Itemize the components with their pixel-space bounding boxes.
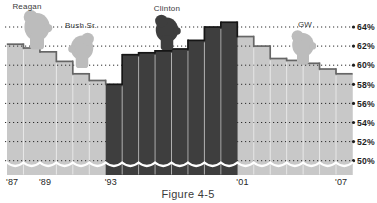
president-label-bush-sr: Bush Sr. <box>65 21 97 30</box>
bar-01 <box>237 37 254 175</box>
gw-head-shape <box>297 50 309 64</box>
bar-94 <box>122 55 139 175</box>
y-axis-label-62: 62% <box>357 41 375 51</box>
y-axis-label-50: 50% <box>357 156 375 166</box>
president-label-reagan: Reagan <box>12 2 41 11</box>
bar-89 <box>40 52 57 175</box>
bar-03 <box>270 59 287 175</box>
gridline-bullet-58 <box>352 83 355 86</box>
x-tick-01: '01 <box>236 177 248 187</box>
bar-91 <box>73 74 90 175</box>
bar-00 <box>221 22 238 175</box>
gridline-bullet-60 <box>352 64 355 67</box>
bar-87 <box>7 44 24 175</box>
y-axis-label-52: 52% <box>357 137 375 147</box>
president-label-gw: GW <box>298 20 312 29</box>
y-axis-label-54: 54% <box>357 118 375 128</box>
bar-96 <box>155 51 172 175</box>
y-axis-label-64: 64% <box>357 22 375 32</box>
x-tick-89: '89 <box>39 177 51 187</box>
reagan-head-shape <box>44 24 52 32</box>
clinton-head-shape <box>161 36 174 50</box>
gw-head-icon <box>292 30 317 64</box>
bar-97 <box>172 49 189 175</box>
gw-head-shape <box>292 30 304 42</box>
bar-88 <box>23 48 40 175</box>
y-axis-label-56: 56% <box>357 99 375 109</box>
bar-90 <box>56 61 73 175</box>
bush-sr-head-shape <box>81 33 94 46</box>
figure-caption: Figure 4-5 <box>161 188 214 200</box>
bar-99 <box>204 27 221 175</box>
clinton-head-icon <box>155 15 181 50</box>
reagan-head-shape <box>30 33 44 49</box>
gridline-bullet-64 <box>352 25 355 28</box>
bar-07 <box>336 74 353 175</box>
bush-sr-head-shape <box>76 54 89 68</box>
chart: 64%62%60%58%56%54%52%50%'87'89'93'01'07R… <box>0 0 377 203</box>
reagan-head-icon <box>24 10 53 49</box>
bar-04 <box>287 60 304 175</box>
bush-sr-head-shape <box>68 45 76 53</box>
clinton-head-shape <box>155 15 168 28</box>
x-tick-87: '87 <box>6 177 18 187</box>
gw-head-shape <box>309 42 316 49</box>
x-tick-93: '93 <box>105 177 117 187</box>
gridline-bullet-54 <box>352 121 355 124</box>
x-tick-07: '07 <box>335 177 347 187</box>
clinton-head-shape <box>173 27 181 35</box>
gridline-bullet-62 <box>352 45 355 48</box>
y-axis-label-60: 60% <box>357 60 375 70</box>
bar-05 <box>303 63 320 175</box>
gridline-bullet-52 <box>352 140 355 143</box>
bar-98 <box>188 40 205 175</box>
figure: 64%62%60%58%56%54%52%50%'87'89'93'01'07R… <box>0 0 377 203</box>
bar-95 <box>139 53 156 175</box>
reagan-head-shape <box>24 10 38 24</box>
gridline-bullet-56 <box>352 102 355 105</box>
president-label-clinton: Clinton <box>154 4 180 13</box>
bar-93 <box>106 84 123 175</box>
y-axis-label-58: 58% <box>357 80 375 90</box>
